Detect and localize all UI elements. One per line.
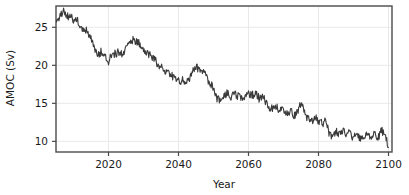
x-tick-label: 2020 — [95, 158, 122, 170]
y-tick-label: 10 — [35, 135, 48, 147]
x-tick-label: 2100 — [375, 158, 402, 170]
x-axis-title: Year — [212, 178, 236, 190]
x-tick-label: 2060 — [235, 158, 262, 170]
plot-background — [0, 0, 409, 195]
y-axis-title: AMOC (Sv) — [4, 50, 16, 106]
y-tick-label: 20 — [35, 59, 48, 71]
y-tick-label: 25 — [35, 21, 48, 33]
x-tick-label: 2080 — [305, 158, 332, 170]
x-tick-label: 2040 — [165, 158, 192, 170]
amoc-line-chart: 2020204020602080210010152025 Year AMOC (… — [0, 0, 409, 195]
y-tick-label: 15 — [35, 97, 48, 109]
chart-figure: 2020204020602080210010152025 Year AMOC (… — [0, 0, 409, 195]
